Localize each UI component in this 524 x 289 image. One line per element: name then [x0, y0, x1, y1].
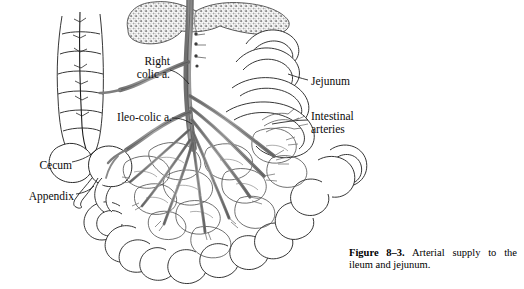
anatomical-figure: Right colic a. Ileo-colic a. Cecum Appen… [0, 0, 524, 289]
label-cecum: Cecum [18, 159, 72, 172]
label-appendix: Appendix [12, 190, 74, 203]
label-ileocolic-artery: Ileo-colic a. [98, 111, 172, 124]
label-jejunum: Jejunum [311, 75, 381, 88]
figure-caption-label: Figure 8–3. [349, 247, 405, 258]
label-right-colic-artery: Right colic a. [108, 55, 170, 80]
label-intestinal-arteries: Intestinal arteries [311, 110, 381, 135]
figure-caption: Figure 8–3. Arterial supply to the ileum… [349, 247, 517, 271]
illustration-canvas [0, 0, 524, 289]
